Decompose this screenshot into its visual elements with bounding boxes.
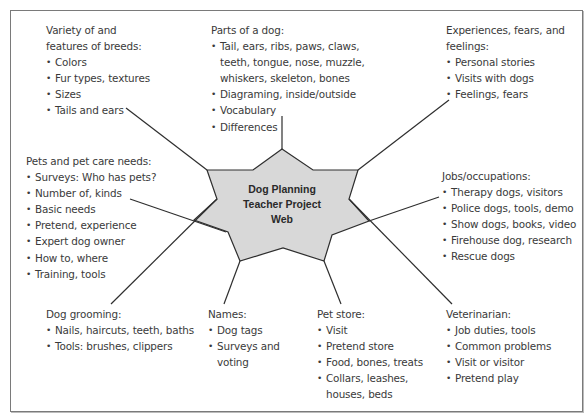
node-title: Jobs/occupations: bbox=[442, 168, 576, 184]
line-experiences bbox=[358, 100, 449, 170]
list-item: Rescue dogs bbox=[442, 248, 576, 264]
list-item: Police dogs, tools, demo bbox=[442, 200, 576, 216]
center-line-1: Dog Planning bbox=[232, 182, 332, 197]
node-breeds: Variety of and features of breeds: Color… bbox=[46, 22, 150, 119]
node-title: Variety of and bbox=[46, 22, 150, 38]
list-item: Collars, leashes, houses, beds bbox=[317, 370, 423, 402]
node-title: Pets and pet care needs: bbox=[26, 153, 156, 169]
list-item: Visits with dogs bbox=[446, 70, 565, 86]
list-item: Tails and ears bbox=[46, 102, 150, 118]
node-parts: Parts of a dog: Tail, ears, ribs, paws, … bbox=[211, 22, 365, 135]
list-item: Tools: brushes, clippers bbox=[46, 338, 194, 354]
line-names bbox=[224, 261, 240, 304]
list-item: Sizes bbox=[46, 86, 150, 102]
list-item: Basic needs bbox=[26, 201, 156, 217]
list-item: Surveys and voting bbox=[208, 338, 280, 370]
list-item: Fur types, textures bbox=[46, 70, 150, 86]
list-item: Diagraming, inside/outside bbox=[211, 86, 365, 102]
list-item: Personal stories bbox=[446, 54, 565, 70]
list-item: Surveys: Who has pets? bbox=[26, 169, 156, 185]
list-item: Common problems bbox=[446, 338, 551, 354]
list-item: Vocabulary bbox=[211, 102, 365, 118]
center-title: Dog Planning Teacher Project Web bbox=[232, 182, 332, 227]
list-item: Pretend play bbox=[446, 370, 551, 386]
list-item: Food, bones, treats bbox=[317, 354, 423, 370]
list-item: Firehouse dog, research bbox=[442, 232, 576, 248]
list-item: Job duties, tools bbox=[446, 322, 551, 338]
list-item: Show dogs, books, video bbox=[442, 216, 576, 232]
list-item: Dog tags bbox=[208, 322, 280, 338]
list-item: Tail, ears, ribs, paws, claws, teeth, to… bbox=[211, 38, 365, 86]
list-item: Number of, kinds bbox=[26, 185, 156, 201]
list-item: Pretend store bbox=[317, 338, 423, 354]
node-title: Parts of a dog: bbox=[211, 22, 365, 38]
node-title: features of breeds: bbox=[46, 38, 150, 54]
line-petstore bbox=[324, 261, 341, 304]
node-title: Names: bbox=[208, 306, 280, 322]
list-item: Nails, haircuts, teeth, baths bbox=[46, 322, 194, 338]
list-item: Therapy dogs, visitors bbox=[442, 184, 576, 200]
node-names: Names: Dog tags Surveys and voting bbox=[208, 306, 280, 370]
node-title: Pet store: bbox=[317, 306, 423, 322]
list-item: Visit bbox=[317, 322, 423, 338]
node-jobs: Jobs/occupations: Therapy dogs, visitors… bbox=[442, 168, 576, 265]
center-line-3: Web bbox=[232, 212, 332, 227]
list-item: Pretend, experience bbox=[26, 217, 156, 233]
node-title: Dog grooming: bbox=[46, 306, 194, 322]
line-jobs bbox=[369, 197, 439, 221]
node-pets: Pets and pet care needs: Surveys: Who ha… bbox=[26, 153, 156, 282]
node-grooming: Dog grooming: Nails, haircuts, teeth, ba… bbox=[46, 306, 194, 354]
center-line-2: Teacher Project bbox=[232, 197, 332, 212]
list-item: Visit or visitor bbox=[446, 354, 551, 370]
node-petstore: Pet store: Visit Pretend store Food, bon… bbox=[317, 306, 423, 403]
node-title: Experiences, fears, and bbox=[446, 22, 565, 38]
node-title: Veterinarian: bbox=[446, 306, 551, 322]
list-item: Colors bbox=[46, 54, 150, 70]
list-item: Differences bbox=[211, 119, 365, 135]
line-vet bbox=[349, 199, 452, 304]
list-item: Training, tools bbox=[26, 266, 156, 282]
list-item: Feelings, fears bbox=[446, 86, 565, 102]
node-experiences: Experiences, fears, and feelings: Person… bbox=[446, 22, 565, 102]
list-item: Expert dog owner bbox=[26, 233, 156, 249]
list-item: How to, where bbox=[26, 250, 156, 266]
node-vet: Veterinarian: Job duties, tools Common p… bbox=[446, 306, 551, 386]
node-title: feelings: bbox=[446, 38, 565, 54]
